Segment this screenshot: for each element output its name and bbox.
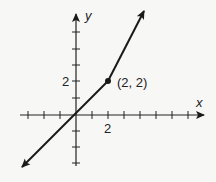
x-tick-label-2: 2 [104, 122, 111, 135]
y-axis-label: y [85, 9, 92, 22]
graph-segment-upper [108, 11, 144, 81]
x-axis-label: x [196, 96, 203, 109]
point-2-2 [105, 78, 111, 84]
chart-canvas [0, 0, 216, 182]
point-label: (2, 2) [117, 76, 147, 89]
graph-segment-lower [22, 81, 108, 167]
y-tick-label-2: 2 [62, 75, 69, 88]
